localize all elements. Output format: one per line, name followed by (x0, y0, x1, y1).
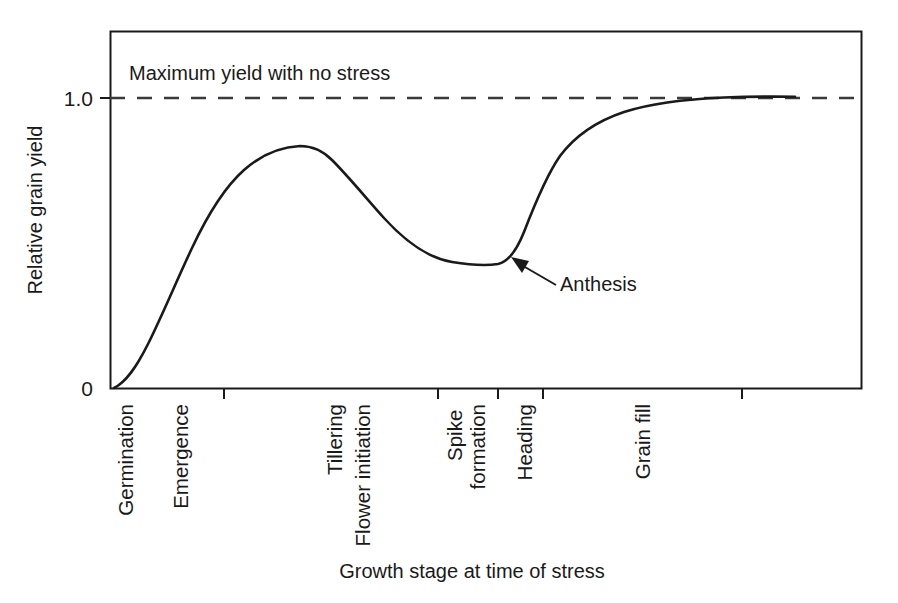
anthesis-annotation-label: Anthesis (560, 273, 637, 295)
x-category-tillering: Tillering (323, 404, 346, 475)
x-category-flower-initiation: Flower initiation (351, 404, 374, 546)
x-category-grain-fill: Grain fill (631, 404, 654, 479)
ytick-label-1-0: 1.0 (64, 87, 93, 110)
anthesis-arrow-head (511, 257, 529, 273)
x-category-spike-formation: Spike formation (443, 404, 489, 489)
x-category-emergence: Emergence (169, 404, 192, 509)
plot-frame (111, 32, 862, 389)
x-category-heading: Heading (513, 404, 536, 480)
ytick-label-0: 0 (81, 377, 93, 400)
max-yield-note: Maximum yield with no stress (129, 62, 390, 84)
chart-figure: 1.0 0 Relative grain yield Maximum yield… (0, 0, 898, 603)
x-axis-title: Growth stage at time of stress (339, 560, 605, 582)
x-category-germination: Germination (114, 404, 137, 516)
x-axis-ticks (224, 388, 742, 399)
yield-response-curve (114, 97, 795, 388)
y-axis-title: Relative grain yield (24, 126, 46, 295)
chart-svg: 1.0 0 Relative grain yield Maximum yield… (0, 0, 898, 603)
